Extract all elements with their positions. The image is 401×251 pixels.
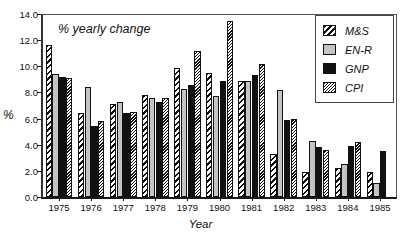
- x-tick-mark: [123, 197, 124, 201]
- legend-item-GNP: GNP: [323, 59, 393, 78]
- bar-MS-1980: [206, 73, 212, 197]
- x-tick-mark: [316, 197, 317, 201]
- bar-group-1978: [139, 14, 171, 197]
- bar-group-1981: [236, 14, 268, 197]
- x-tick-mark: [252, 197, 253, 201]
- bar-CPI-1981: [259, 64, 265, 197]
- bar-MS-1975: [46, 45, 52, 197]
- bar-CPI-1977: [130, 112, 136, 197]
- bar-ENR-1982: [277, 90, 283, 197]
- x-tick-label: 1985: [369, 202, 390, 213]
- bar-MS-1977: [110, 104, 116, 197]
- bar-MS-1976: [78, 113, 84, 197]
- bar-GNP-1978: [156, 102, 162, 197]
- legend-label: M&S: [345, 25, 369, 37]
- bar-MS-1983: [302, 172, 308, 197]
- legend-swatch-CPI: [323, 82, 336, 93]
- x-tick-mark: [59, 197, 60, 201]
- bar-GNP-1983: [316, 147, 322, 197]
- bar-MS-1984: [335, 168, 341, 197]
- bar-CPI-1976: [98, 121, 104, 197]
- x-tick-label: 1979: [177, 202, 198, 213]
- x-tick-mark: [348, 197, 349, 201]
- bar-CPI-1982: [291, 119, 297, 197]
- legend-label: GNP: [345, 63, 369, 75]
- bar-ENR-1985: [373, 183, 379, 197]
- chart-legend: M&SEN-RGNPCPI: [315, 15, 394, 103]
- y-tick-label: 14.0: [20, 9, 39, 20]
- x-tick-label: 1981: [241, 202, 262, 213]
- bar-MS-1982: [270, 154, 276, 197]
- bar-ENR-1977: [117, 102, 123, 197]
- bar-GNP-1984: [348, 146, 354, 197]
- legend-swatch-MS: [323, 25, 336, 36]
- bar-CPI-1975: [66, 78, 72, 197]
- bar-GNP-1975: [59, 77, 65, 197]
- y-tick-label: 10.0: [20, 61, 39, 72]
- x-tick-mark: [91, 197, 92, 201]
- bar-ENR-1981: [245, 81, 251, 197]
- bar-CPI-1979: [194, 51, 200, 197]
- bar-group-1977: [107, 14, 139, 197]
- x-tick-mark: [155, 197, 156, 201]
- bar-GNP-1982: [284, 120, 290, 197]
- legend-swatch-GNP: [323, 63, 336, 74]
- bar-group-1980: [203, 14, 235, 197]
- bar-GNP-1985: [380, 151, 386, 197]
- x-axis-tick-labels: 1975197619771978197919801981198219831984…: [0, 202, 401, 218]
- bar-ENR-1983: [309, 141, 315, 197]
- x-tick-label: 1976: [81, 202, 102, 213]
- bar-CPI-1978: [162, 98, 168, 197]
- bar-group-1976: [75, 14, 107, 197]
- bar-GNP-1977: [123, 113, 129, 197]
- legend-swatch-ENR: [323, 44, 336, 55]
- x-axis-title: Year: [0, 218, 401, 230]
- bar-MS-1981: [238, 81, 244, 197]
- x-tick-label: 1980: [209, 202, 230, 213]
- bar-GNP-1981: [252, 75, 258, 197]
- x-tick-mark: [284, 197, 285, 201]
- bar-group-1975: [43, 14, 75, 197]
- bar-CPI-1983: [323, 150, 329, 197]
- bar-group-1979: [171, 14, 203, 197]
- y-tick-label: 12.0: [20, 35, 39, 46]
- bar-GNP-1980: [220, 81, 226, 197]
- legend-label: CPI: [345, 82, 363, 94]
- legend-item-CPI: CPI: [323, 78, 393, 97]
- bar-CPI-1984: [355, 142, 361, 197]
- x-tick-mark: [220, 197, 221, 201]
- x-tick-label: 1982: [273, 202, 294, 213]
- x-tick-label: 1978: [145, 202, 166, 213]
- bar-GNP-1976: [91, 126, 97, 197]
- legend-label: EN-R: [345, 44, 372, 56]
- x-tick-mark: [380, 197, 381, 201]
- bar-ENR-1978: [149, 98, 155, 197]
- bar-group-1982: [268, 14, 300, 197]
- bar-MS-1985: [367, 172, 373, 197]
- x-tick-mark: [187, 197, 188, 201]
- x-tick-label: 1983: [305, 202, 326, 213]
- x-tick-label: 1977: [113, 202, 134, 213]
- bar-ENR-1975: [52, 74, 58, 197]
- bar-ENR-1979: [181, 89, 187, 197]
- legend-item-ENR: EN-R: [323, 40, 393, 59]
- bar-MS-1979: [174, 68, 180, 197]
- bar-ENR-1984: [341, 164, 347, 197]
- x-tick-label: 1975: [48, 202, 69, 213]
- legend-item-MS: M&S: [323, 21, 393, 40]
- bar-ENR-1980: [213, 96, 219, 197]
- bar-ENR-1976: [85, 87, 91, 197]
- bar-MS-1978: [142, 95, 148, 197]
- bar-chart: % 0.02.04.06.08.010.012.014.0 % yearly c…: [0, 0, 401, 251]
- bar-CPI-1980: [227, 21, 233, 197]
- x-tick-label: 1984: [337, 202, 358, 213]
- bar-GNP-1979: [188, 85, 194, 197]
